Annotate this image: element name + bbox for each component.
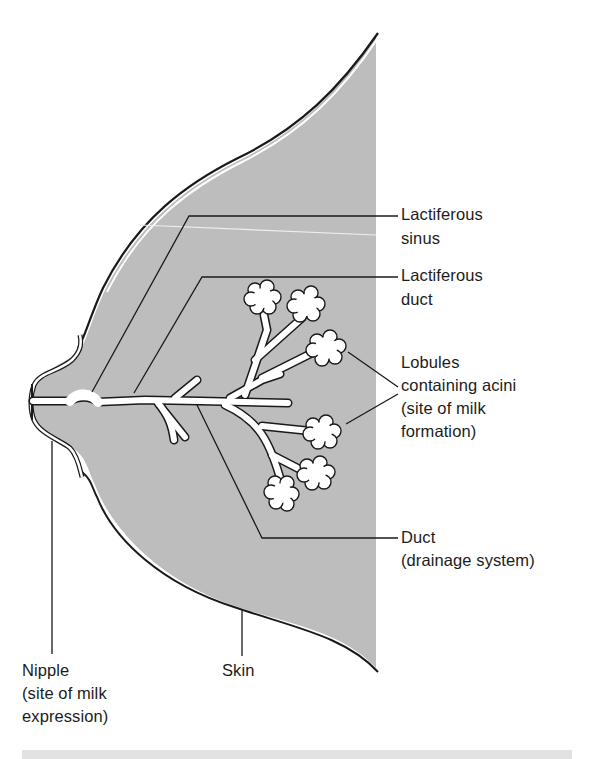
label-nipple: Nipple (site of milk expression) — [22, 660, 108, 726]
caption-band — [22, 750, 572, 759]
label-duct: Duct (drainage system) — [401, 527, 535, 570]
label-lobules: Lobules containing acini (site of milk f… — [401, 352, 516, 441]
label-lactiferous-duct: Lactiferous duct — [401, 265, 483, 309]
label-skin: Skin — [222, 660, 255, 680]
label-lactiferous-sinus: Lactiferous sinus — [401, 204, 483, 248]
